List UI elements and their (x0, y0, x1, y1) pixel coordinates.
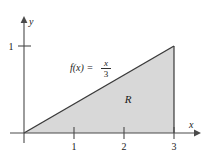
x-axis-label: x (188, 119, 194, 130)
x-tick-label-2: 2 (122, 141, 127, 152)
x-tick-label-1: 1 (72, 141, 77, 152)
function-label-denominator: 3 (104, 69, 109, 79)
graph-canvas: y x 1 1 2 3 f(x) = x 3 R (0, 0, 206, 156)
x-axis-arrow-icon (194, 130, 201, 137)
y-axis-arrow-icon (21, 16, 28, 23)
x-tick-label-3: 3 (172, 141, 177, 152)
y-axis-label: y (28, 16, 34, 27)
y-tick-label-1: 1 (9, 41, 14, 52)
function-label-numerator: x (103, 58, 108, 68)
region-label-R: R (124, 93, 132, 105)
figure-container: y x 1 1 2 3 f(x) = x 3 R (0, 0, 206, 156)
function-label-prefix: f(x) = (70, 62, 93, 74)
